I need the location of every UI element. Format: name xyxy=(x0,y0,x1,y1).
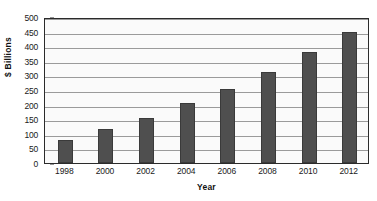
bar xyxy=(261,72,276,163)
bar-chart-figure: $ Billions 05010015020025030035040045050… xyxy=(0,0,377,201)
bar xyxy=(302,52,317,163)
y-tick-label: 0 xyxy=(12,159,38,169)
y-tick-label: 300 xyxy=(12,71,38,81)
y-tick-label: 50 xyxy=(12,144,38,154)
y-tick-label: 250 xyxy=(12,86,38,96)
bar xyxy=(342,32,357,163)
y-tick-label: 400 xyxy=(12,42,38,52)
y-tick-label: 150 xyxy=(12,115,38,125)
bar-series xyxy=(45,19,368,163)
bar xyxy=(58,140,73,163)
plot-area xyxy=(44,18,369,164)
bar xyxy=(180,103,195,163)
x-tick-label: 2004 xyxy=(163,166,209,176)
y-tick-label: 500 xyxy=(12,13,38,23)
x-tick-label: 2002 xyxy=(123,166,169,176)
x-axis-tick-labels: 19982000200220042006200820102012 xyxy=(44,166,369,180)
bar xyxy=(139,118,154,163)
x-tick-label: 2008 xyxy=(244,166,290,176)
y-tick-label: 450 xyxy=(12,28,38,38)
x-tick-label: 2012 xyxy=(326,166,372,176)
x-tick-label: 2010 xyxy=(285,166,331,176)
x-axis-title: Year xyxy=(44,182,369,192)
bar xyxy=(98,129,113,163)
y-tick-label: 200 xyxy=(12,101,38,111)
x-tick-label: 1998 xyxy=(41,166,87,176)
y-tick-label: 100 xyxy=(12,130,38,140)
y-tick-label: 350 xyxy=(12,57,38,67)
y-axis-tick-labels: 050100150200250300350400450500 xyxy=(12,18,38,164)
bar xyxy=(220,89,235,163)
x-tick-label: 2000 xyxy=(82,166,128,176)
x-tick-label: 2006 xyxy=(204,166,250,176)
